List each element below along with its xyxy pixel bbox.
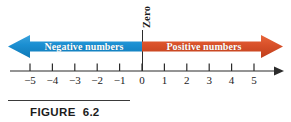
tick-label-4: 4 — [220, 72, 244, 88]
axis-tick-group — [30, 64, 254, 72]
figure-caption: FIGURE6.2 — [30, 104, 99, 120]
tick-label-neg5: −5 — [18, 72, 42, 88]
positive-numbers-label: Positive numbers — [146, 38, 262, 56]
tick-label-neg2: −2 — [85, 72, 109, 88]
figure-caption-number: 6.2 — [83, 106, 100, 118]
tick-label-neg1: −1 — [108, 72, 132, 88]
tick-label-0: 0 — [130, 72, 154, 88]
caption-divider — [8, 100, 130, 101]
tick-label-2: 2 — [175, 72, 199, 88]
zero-annotation-label: Zero — [132, 0, 162, 34]
tick-label-neg4: −4 — [40, 72, 64, 88]
negative-numbers-label: Negative numbers — [26, 38, 142, 56]
tick-label-1: 1 — [152, 72, 176, 88]
tick-label-5: 5 — [242, 72, 266, 88]
figure-6-2: Zero Negative numbers Positi — [0, 0, 291, 122]
tick-label-3: 3 — [197, 72, 221, 88]
tick-label-neg3: −3 — [63, 72, 87, 88]
figure-caption-label: FIGURE — [30, 106, 76, 118]
axis-tick-labels: −5 −4 −3 −2 −1 0 1 2 3 4 5 — [0, 72, 291, 88]
